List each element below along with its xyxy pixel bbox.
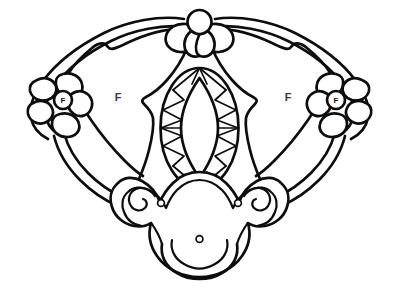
cartouche-rivet-center: [196, 236, 203, 243]
center-gem: [161, 68, 239, 188]
artwork-canvas: F F: [0, 0, 399, 299]
right-field-label: F: [285, 91, 292, 103]
cartouche-rivet-right: [235, 200, 242, 207]
left-flower-petal-upper-left: [30, 78, 57, 100]
left-flower-petal-lower-left: [28, 101, 53, 124]
left-field-label: F: [115, 91, 122, 103]
right-flower-center-letter: F: [334, 96, 339, 105]
brooch-line-drawing: F F: [0, 0, 399, 299]
left-flower-petal-bottom: [52, 113, 79, 137]
right-flower-petal-upper-right: [342, 78, 369, 100]
left-flower-center-letter: F: [61, 96, 66, 105]
top-flower-center: [188, 10, 212, 34]
right-flower-petal-lower-right: [346, 101, 371, 124]
cartouche-rivet-left: [158, 200, 165, 207]
right-flower-petal-bottom: [320, 113, 347, 137]
